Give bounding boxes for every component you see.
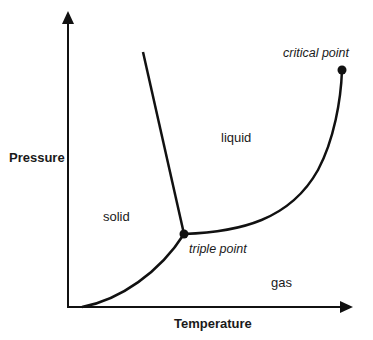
y-axis-arrowhead-icon — [62, 11, 74, 24]
region-label-gas: gas — [271, 276, 292, 289]
region-label-solid: solid — [103, 210, 130, 223]
region-label-liquid: liquid — [221, 131, 251, 144]
sublimation-curve — [82, 234, 184, 307]
fusion-line — [143, 52, 184, 234]
vaporization-curve — [184, 70, 342, 234]
triple-point-marker — [180, 230, 189, 239]
x-axis-label: Temperature — [174, 317, 252, 330]
critical-point-label: critical point — [283, 47, 349, 60]
critical-point-marker — [338, 66, 347, 75]
triple-point-label: triple point — [189, 243, 247, 256]
x-axis-arrowhead-icon — [340, 301, 353, 313]
y-axis-label: Pressure — [9, 151, 65, 164]
